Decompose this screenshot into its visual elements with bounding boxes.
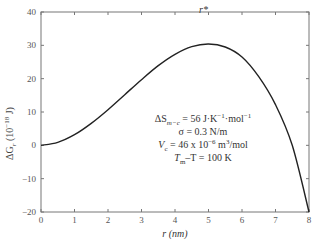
param-volume: Vc = 46 x 10−6 m3/mol (138, 138, 268, 151)
y-tick-label: 30 (27, 40, 37, 50)
x-tick-label: 3 (139, 215, 144, 225)
parameter-annotations: ΔSm−c = 56 J·K−1·mol−1 σ = 0.3 N/m Vc = … (138, 112, 268, 164)
y-tick-label: −20 (22, 207, 37, 217)
x-tick-label: 0 (39, 215, 44, 225)
y-tick-label: 20 (27, 74, 37, 84)
y-tick-label: 0 (32, 140, 37, 150)
param-undercooling: Tm–T = 100 K (138, 151, 268, 164)
x-tick-label: 6 (240, 215, 245, 225)
x-tick-label: 2 (106, 215, 111, 225)
x-tick-label: 1 (72, 215, 77, 225)
x-tick-label: 4 (173, 215, 178, 225)
x-axis-label: r (nm) (162, 228, 188, 240)
x-tick-label: 7 (273, 215, 278, 225)
y-tick-label: 10 (27, 107, 37, 117)
y-axis-label: ΔGr (10−18 J) (4, 107, 15, 160)
rstar-annotation: r* (199, 4, 208, 15)
y-tick-label: −10 (22, 174, 37, 184)
y-tick-label: 40 (27, 7, 37, 17)
x-tick-label: 8 (307, 215, 312, 225)
param-sigma: σ = 0.3 N/m (138, 125, 268, 138)
x-tick-label: 5 (206, 215, 211, 225)
param-entropy: ΔSm−c = 56 J·K−1·mol−1 (138, 112, 268, 125)
